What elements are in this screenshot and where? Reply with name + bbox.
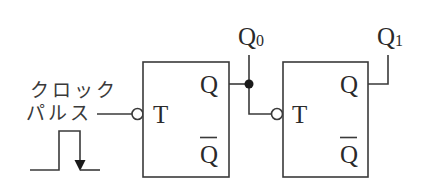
- ripple-counter-diagram: クロック パルス T Q Q Q0 T Q Q Q1: [0, 0, 424, 191]
- flipflop-1: T Q Q: [283, 62, 368, 177]
- ff1-t-input-label: T: [292, 101, 307, 128]
- ff1-clock-inversion-bubble: [272, 109, 283, 120]
- ff0-qbar-output-label: Q: [200, 141, 218, 168]
- clock-label-line2: パルス: [26, 102, 92, 124]
- ff0-t-input-label: T: [153, 101, 168, 128]
- ff0-clock-inversion-bubble: [132, 109, 143, 120]
- ff1-q-output-wire: [368, 55, 388, 84]
- q1-label: Q1: [377, 23, 403, 50]
- q0-label: Q0: [238, 23, 264, 50]
- ff1-q-output-label: Q: [340, 71, 358, 98]
- q0-junction-dot: [245, 80, 254, 89]
- ff1-qbar-output-label: Q: [340, 141, 358, 168]
- ff0-q-output-label: Q: [200, 71, 218, 98]
- clock-pulse-waveform: [30, 131, 80, 170]
- clock-label-line1: クロック: [30, 79, 118, 101]
- flipflop-0: T Q Q: [143, 62, 229, 177]
